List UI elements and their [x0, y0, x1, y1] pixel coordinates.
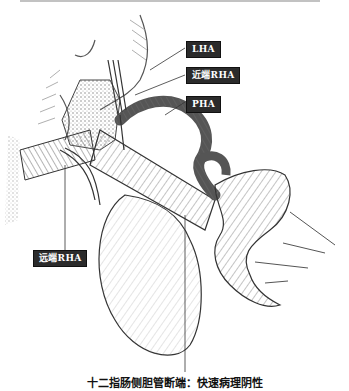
figure-caption: 十二指肠侧胆管断端：快速病理阴性 [0, 374, 349, 390]
label-pha: PHA [186, 96, 221, 113]
portal-vein [20, 130, 95, 180]
duodenum [215, 170, 290, 307]
label-proximal-rha: 近端RHA [186, 67, 240, 84]
anatomy-illustration [0, 0, 349, 391]
label-lha: LHA [186, 41, 221, 58]
label-distal-rha: 远端RHA [33, 250, 87, 267]
